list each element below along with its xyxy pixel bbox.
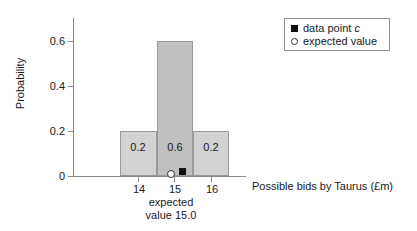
x-tick-label-14: 14 [119, 184, 159, 195]
bar-value-16: 0.2 [191, 142, 231, 153]
expected-value-annotation-line2: value 15.0 [131, 209, 211, 222]
y-tick-0.6 [68, 41, 73, 42]
x-tick-14 [138, 177, 139, 182]
legend-label-data-point-symbol: c [354, 22, 360, 34]
x-tick-label-16: 16 [192, 184, 232, 195]
bar-value-15: 0.6 [155, 142, 195, 153]
expected-value-annotation-line1: expected [131, 196, 211, 209]
bar-15 [157, 41, 193, 176]
open-circle-icon [291, 38, 298, 45]
legend-item-data-point: data point c [291, 22, 389, 35]
legend-label-data-point: data point c [303, 23, 360, 34]
legend-label-data-point-text: data point [303, 22, 354, 34]
bar-16 [193, 131, 229, 176]
legend-item-expected-value: expected value [291, 35, 389, 48]
y-tick-0 [68, 176, 73, 177]
x-tick-16 [211, 177, 212, 182]
bar-value-14: 0.2 [118, 142, 158, 153]
y-axis-line [73, 18, 74, 177]
probability-bar-chart: 0.2 0.6 0.2 0 0.2 0.4 0.6 14 15 16 Proba… [0, 0, 417, 231]
bar-14 [120, 131, 157, 176]
chart-legend: data point c expected value [284, 18, 390, 51]
y-tick-0.2 [68, 131, 73, 132]
y-tick-label-0: 0 [25, 171, 65, 182]
x-axis-line [73, 176, 246, 177]
data-point-c-marker [179, 168, 186, 175]
filled-square-icon [291, 25, 298, 32]
y-axis-title: Probability [15, 29, 26, 139]
expected-value-annotation: expected value 15.0 [131, 196, 211, 222]
legend-label-expected-value: expected value [303, 36, 377, 47]
y-tick-label-0.4: 0.4 [25, 81, 65, 92]
x-tick-15 [174, 177, 175, 182]
x-axis-title: Possible bids by Taurus (£m) [252, 181, 393, 192]
x-tick-label-15: 15 [155, 184, 195, 195]
y-tick-0.4 [68, 86, 73, 87]
expected-value-marker [167, 170, 175, 178]
y-tick-label-0.2: 0.2 [25, 126, 65, 137]
y-tick-label-0.6: 0.6 [25, 36, 65, 47]
